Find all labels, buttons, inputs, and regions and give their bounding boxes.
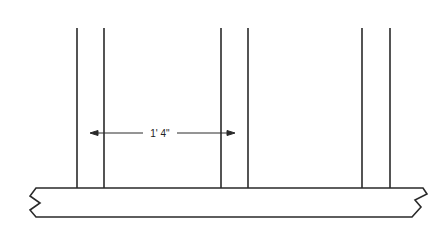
dimension-label: 1' 4" [150, 128, 170, 139]
arrowhead-left-icon [90, 131, 98, 136]
stud-spacing-diagram: 1' 4" [0, 0, 447, 232]
arrowhead-right-icon [227, 131, 235, 136]
bottom-plate [30, 188, 427, 217]
